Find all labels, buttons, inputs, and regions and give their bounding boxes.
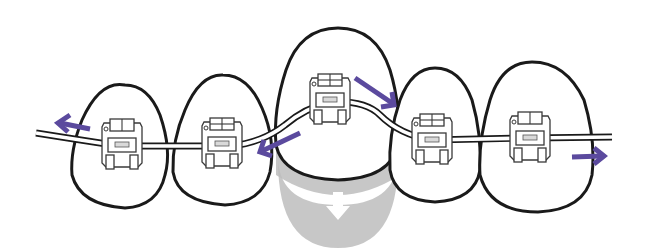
braces-illustration: Braces moving an extruded tooth down int… [0,0,649,250]
bracket-1 [102,119,142,169]
braces-diagram-svg [0,0,649,250]
bracket-3 [310,74,350,124]
bracket-5 [510,112,550,162]
bracket-4 [412,114,452,164]
bracket-2 [202,118,242,168]
